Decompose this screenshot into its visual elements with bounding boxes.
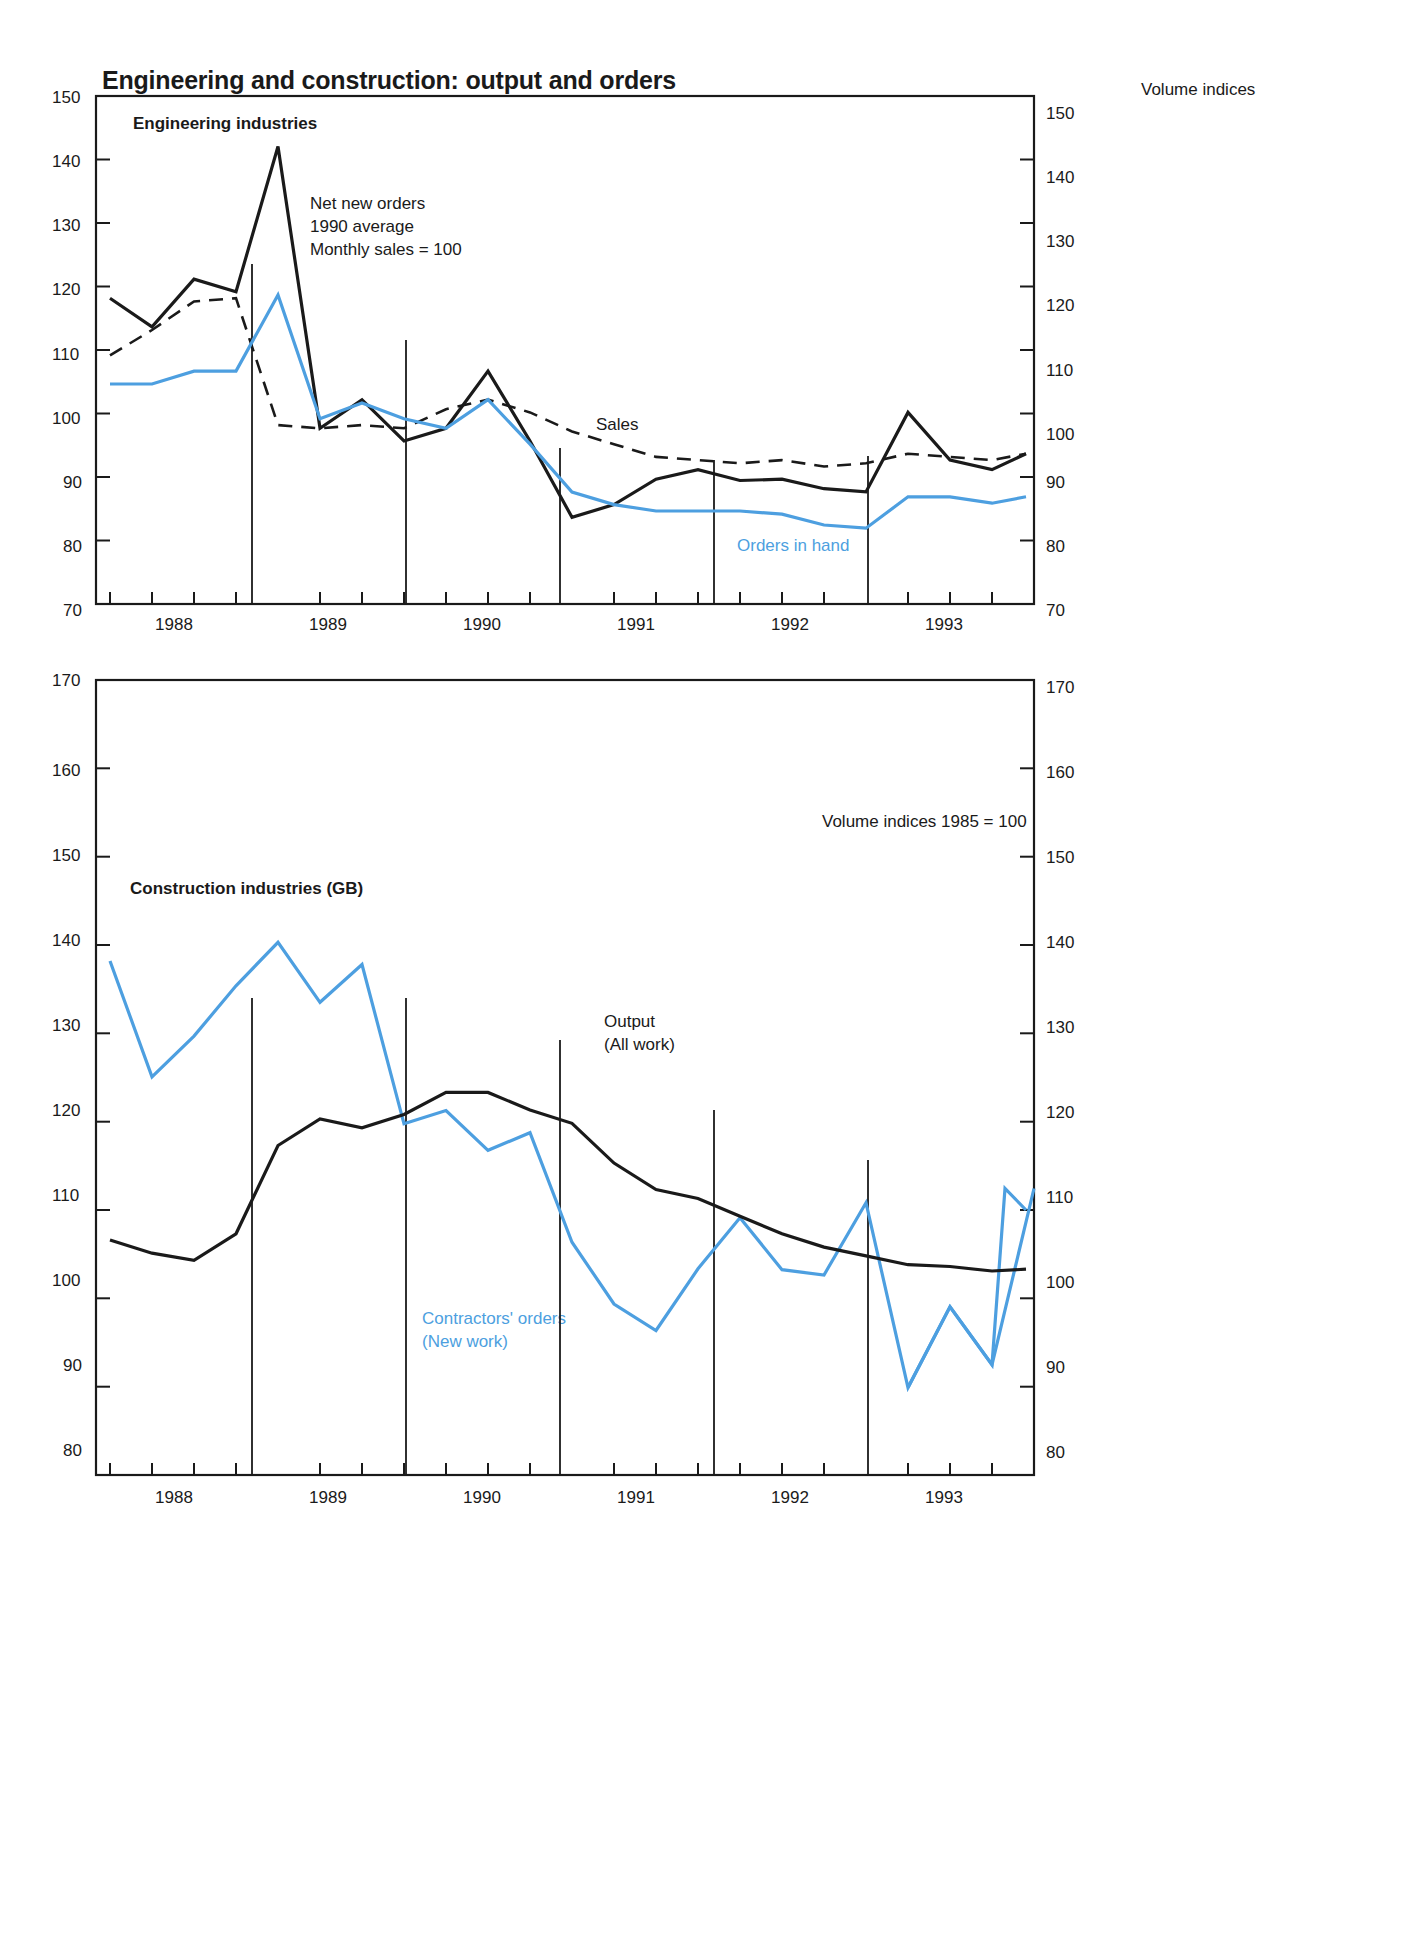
panel-1-left-ticks bbox=[96, 96, 110, 604]
panel-2-xaxis bbox=[96, 1463, 1034, 1475]
panel-2-series-contractors-orders-tail bbox=[908, 1189, 1026, 1388]
panel-1-right-ticks bbox=[1020, 96, 1034, 604]
panel-1-year-dividers bbox=[252, 264, 868, 604]
chart-page: Engineering and construction: output and… bbox=[0, 0, 1407, 1954]
panel-2-year-dividers bbox=[252, 998, 868, 1475]
panel-1-xaxis bbox=[96, 592, 1034, 604]
panel-2-frame bbox=[96, 680, 1034, 1475]
panel-2-series-output bbox=[110, 1092, 1026, 1271]
panel-1-series-orders-in-hand bbox=[110, 295, 1026, 528]
panel-2-left-ticks bbox=[96, 680, 110, 1475]
panel-2-right-ticks bbox=[1020, 680, 1034, 1475]
panel-1-plot bbox=[0, 0, 1407, 660]
panel-1-series-sales bbox=[110, 298, 1026, 466]
panel-1-frame bbox=[96, 96, 1034, 604]
panel-2-svg bbox=[0, 640, 1407, 1500]
panel-2-plot bbox=[0, 640, 1407, 1500]
panel-1-svg bbox=[0, 0, 1407, 660]
panel-1-series-net-new-orders bbox=[110, 147, 1026, 518]
panel-2-series-contractors-orders bbox=[110, 942, 1034, 1387]
